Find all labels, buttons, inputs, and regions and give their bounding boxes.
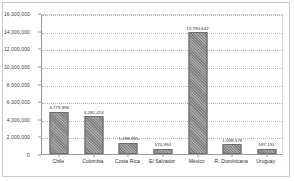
bar-slot: 4,281,424 <box>77 15 112 154</box>
bar-value-label: 4,281,424 <box>84 110 104 115</box>
bar-slot: 13,790,642 <box>180 15 215 154</box>
x-axis-tick <box>232 154 233 157</box>
x-axis-category-label: Chile <box>41 158 76 165</box>
x-axis-tick <box>128 154 129 157</box>
y-axis-tick <box>38 66 41 67</box>
x-axis-category-label: R. Dominicana <box>214 158 249 165</box>
y-axis-tick-label: 6,000,000 <box>0 99 30 105</box>
y-axis-tick <box>38 14 41 15</box>
x-axis-tick <box>162 154 163 157</box>
y-axis-tick <box>38 84 41 85</box>
bar-slot: 570,994 <box>146 15 181 154</box>
bar-value-label: 1,098,579 <box>222 138 242 143</box>
y-axis-tick <box>38 155 41 156</box>
x-axis-category-label: México <box>179 158 214 165</box>
x-axis-tick <box>93 154 94 157</box>
x-axis-tick <box>266 154 267 157</box>
bar-slot: 4,775,996 <box>42 15 77 154</box>
y-axis-tick-label: 16,000,000 <box>0 11 30 17</box>
y-axis-tick-label: 10,000,000 <box>0 64 30 70</box>
y-axis-tick <box>38 49 41 50</box>
bar-value-label: 597,191 <box>259 142 275 147</box>
y-axis-tick <box>38 137 41 138</box>
x-axis-category-label: El Salvador <box>145 158 180 165</box>
x-axis-tick <box>197 154 198 157</box>
bar-slot: 1,098,579 <box>215 15 250 154</box>
y-axis-tick-label: 4,000,000 <box>0 117 30 123</box>
x-axis-category-label: Colombia <box>76 158 111 165</box>
y-axis-tick <box>38 119 41 120</box>
bar-value-label: 4,775,996 <box>49 105 69 110</box>
y-axis-tick-label: 8,000,000 <box>0 82 30 88</box>
bar-slot: 597,191 <box>249 15 284 154</box>
bar-value-label: 13,790,642 <box>186 26 208 31</box>
bar[interactable] <box>119 143 138 154</box>
bar[interactable] <box>223 144 242 154</box>
chart-frame: 4,775,9964,281,4241,298,965570,99413,790… <box>2 2 290 177</box>
y-axis-tick-label: 0 <box>0 152 30 158</box>
y-axis-tick-label: 12,000,000 <box>0 46 30 52</box>
bar[interactable] <box>188 32 207 154</box>
x-axis-labels: ChileColombiaCosta RicaEl SalvadorMéxico… <box>41 158 283 181</box>
y-axis-tick <box>38 102 41 103</box>
x-axis-category-label: Costa Rica <box>110 158 145 165</box>
bar[interactable] <box>84 116 103 154</box>
x-axis-tick <box>59 154 60 157</box>
y-axis-tick-label: 14,000,000 <box>0 29 30 35</box>
bar-value-label: 570,994 <box>155 142 171 147</box>
plot-area: 4,775,9964,281,4241,298,965570,99413,790… <box>41 14 283 155</box>
bar[interactable] <box>50 112 69 154</box>
y-axis-tick-label: 2,000,000 <box>0 134 30 140</box>
y-axis-tick <box>38 31 41 32</box>
bar-slot: 1,298,965 <box>111 15 146 154</box>
x-axis-category-label: Uruguay <box>248 158 283 165</box>
bar-value-label: 1,298,965 <box>118 136 138 141</box>
